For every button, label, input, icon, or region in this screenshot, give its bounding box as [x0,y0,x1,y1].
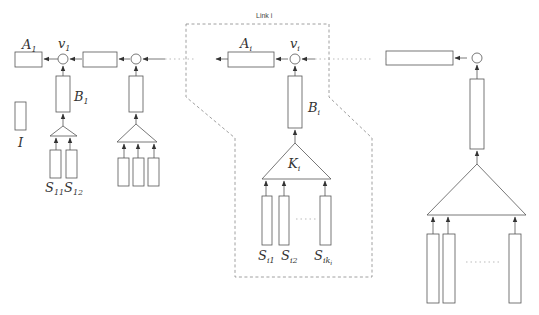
label-A1: A1 [21,37,36,54]
link-i-group: Link i Ai vi Bi Ki Si1 Si2 Siki [186,12,372,277]
label-v1: v1 [58,36,70,53]
label-S11: S11 [45,180,64,197]
link-2 [117,54,195,186]
box-Ai [228,52,274,67]
box-B1 [56,76,70,112]
box-Bn [470,79,484,149]
label-S12: S12 [64,180,83,197]
box-Si2 [279,196,289,245]
node-v2 [131,54,141,64]
box-Bi [288,76,302,128]
box-link1-next [83,52,117,67]
link-1: A1 v1 B1 I S11 S12 [15,36,117,197]
label-Siki: Siki [314,248,332,266]
box-A1 [15,52,42,67]
box-S21 [118,158,129,186]
box-An [386,51,453,65]
node-v1 [58,54,68,64]
link-chain-diagram: A1 v1 B1 I S11 S12 [0,0,539,315]
box-S23 [148,158,159,186]
triangle-Kn [427,164,526,215]
label-I: I [17,135,24,150]
label-Ai: Ai [239,36,252,53]
label-Si1: Si1 [258,248,275,265]
link-n [386,51,526,303]
box-B2 [129,76,143,112]
triangle-sum-1 [50,126,77,136]
node-vi [290,54,300,64]
label-vi: vi [290,36,300,53]
box-I [15,102,26,130]
node-vn [472,53,482,63]
box-Siki [320,196,331,245]
box-Sn2 [443,234,455,303]
box-Sn1 [427,234,439,303]
triangle-sum-2 [117,124,157,142]
box-S22 [133,158,144,186]
box-S12 [66,150,77,178]
box-S11 [50,150,61,178]
box-Si1 [262,196,272,245]
label-B1: B1 [73,89,89,106]
box-Snk [509,234,521,303]
link-i-title: Link i [256,12,273,19]
label-Si2: Si2 [281,248,298,265]
label-Bi: Bi [307,100,321,117]
